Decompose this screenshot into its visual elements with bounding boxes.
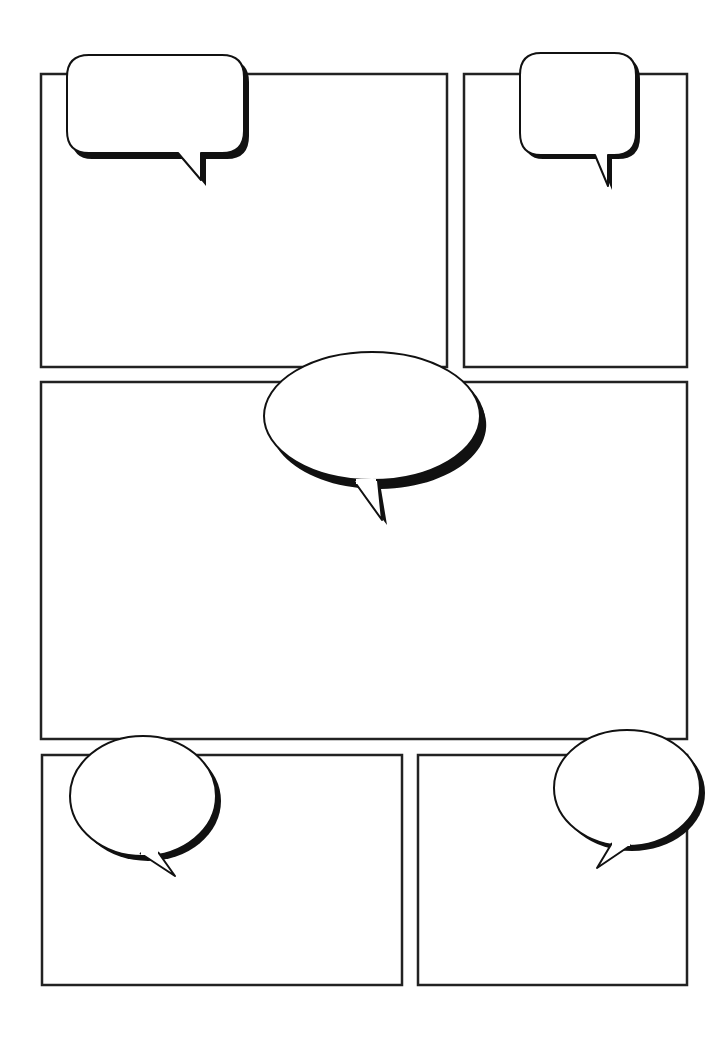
comic-page (0, 0, 716, 1043)
